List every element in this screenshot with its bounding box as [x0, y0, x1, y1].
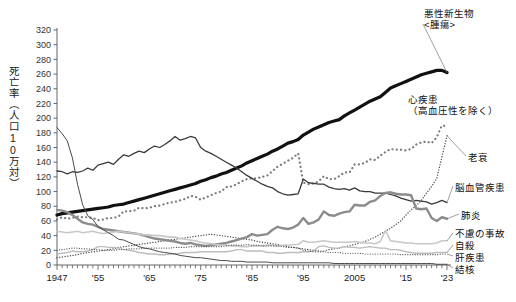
mortality-line-chart: 0204060801001201401601802002202402602803… [0, 0, 516, 302]
series-label-heart: 心疾患 （高血圧性を除く） [408, 94, 498, 116]
y-tick-label: 260 [36, 69, 51, 79]
x-tick-label: '95 [297, 272, 309, 283]
y-tick-label: 240 [36, 84, 51, 94]
y-tick-label: 220 [36, 99, 51, 109]
x-tick-label: '65 [143, 272, 155, 283]
x-tick-label: '85 [246, 272, 258, 283]
series-line [57, 246, 447, 255]
x-tick-label: '75 [194, 272, 206, 283]
label-leader-line [447, 254, 453, 256]
series-label-suicide: 自殺 [455, 240, 475, 251]
series-label-cancer-line1: 悪性新生物 [424, 8, 474, 19]
y-tick-label: 300 [36, 40, 51, 50]
series-label-cancer-line2: <腫瘍> [424, 19, 455, 30]
series-label-senility: 老衰 [468, 152, 488, 163]
y-tick-label: 100 [36, 187, 51, 197]
x-tick-label: '23 [441, 272, 453, 283]
chart-root: 死亡率（人口10万対） 0204060801001201401601802002… [0, 0, 516, 302]
series-line [57, 230, 447, 246]
series-label-cerebrovascular: 脳血管疾患 [455, 182, 505, 193]
y-tick-label: 180 [36, 128, 51, 138]
x-tick-label: '15 [400, 272, 412, 283]
y-tick-label: 80 [41, 201, 51, 211]
y-tick-label: 320 [36, 25, 51, 35]
series-line [57, 136, 447, 258]
x-tick-label: 1947 [46, 272, 67, 283]
label-leader-line [447, 214, 459, 219]
series-label-accident: 不慮の事故 [455, 228, 505, 239]
y-tick-label: 160 [36, 143, 51, 153]
label-leader-line [447, 136, 466, 156]
y-axis-label: 死亡率（人口10万対） [2, 66, 18, 189]
y-tick-label: 20 [41, 246, 51, 256]
series-line [57, 136, 447, 204]
series-label-cancer: 悪性新生物 <腫瘍> [424, 8, 474, 30]
y-tick-label: 280 [36, 55, 51, 65]
label-leader-line [447, 233, 453, 241]
series-line [57, 128, 447, 265]
y-tick-label: 0 [46, 260, 51, 270]
series-label-heart-line1: 心疾患 [408, 94, 438, 105]
y-axis: 0204060801001201401601802002202402602803… [36, 25, 57, 270]
label-leader-line [423, 24, 447, 73]
y-tick-label: 140 [36, 157, 51, 167]
x-tick-label: 2005 [344, 272, 365, 283]
y-tick-label: 120 [36, 172, 51, 182]
series-layer [57, 24, 466, 268]
y-tick-label: 200 [36, 113, 51, 123]
series-label-heart-line2: （高血圧性を除く） [408, 105, 498, 116]
series-label-liver: 肝疾患 [455, 252, 485, 263]
x-axis: 1947'55'65'75'85'952005'15'23 [46, 265, 453, 283]
y-tick-label: 40 [41, 231, 51, 241]
series-label-pneumonia: 肺炎 [461, 210, 481, 221]
x-tick-label: '55 [92, 272, 104, 283]
series-label-tuberculosis: 結核 [455, 264, 475, 275]
label-leader-line [447, 245, 453, 253]
label-leader-line [447, 186, 453, 203]
y-tick-label: 60 [41, 216, 51, 226]
